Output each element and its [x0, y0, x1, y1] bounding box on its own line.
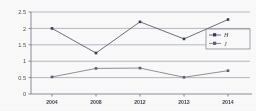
- series-j-point: [183, 76, 186, 79]
- x-tick-label: 2008: [90, 99, 102, 105]
- series-h-point: [95, 52, 98, 55]
- x-tick-label: 2014: [222, 99, 234, 105]
- x-tick-label: 2013: [178, 99, 190, 105]
- legend-marker-h: [213, 33, 216, 36]
- chart-canvas: 2.5 2 1.5 1 0.5 0 2004 2008 2012 2013 20…: [0, 0, 256, 111]
- series-h-point: [227, 18, 230, 21]
- y-tick-label: 2.5: [18, 9, 26, 15]
- series-j-point: [95, 67, 98, 70]
- series-j-point: [227, 69, 230, 72]
- y-axis-tick-labels: 2.5 2 1.5 1 0.5 0: [18, 9, 26, 97]
- series-j-point: [139, 67, 142, 70]
- legend-marker-j: [213, 42, 216, 45]
- series-h-point: [183, 38, 186, 41]
- x-tick-label: 2004: [46, 99, 58, 105]
- y-tick-label: 1: [23, 58, 26, 64]
- series-h-point: [139, 21, 142, 24]
- x-tick-label: 2012: [134, 99, 146, 105]
- series-h-point: [51, 27, 54, 30]
- legend-label-h: H: [223, 32, 229, 38]
- x-axis-tick-labels: 2004 2008 2012 2013 2014: [46, 99, 234, 105]
- series-j-point: [51, 76, 54, 79]
- y-tick-label: 0.5: [18, 75, 26, 81]
- y-tick-label: 0: [23, 91, 26, 97]
- chart-legend[interactable]: H J: [206, 29, 250, 49]
- y-tick-label: 2: [23, 26, 26, 32]
- legend-label-j: J: [224, 41, 227, 47]
- y-tick-label: 1.5: [18, 42, 26, 48]
- line-chart: 2.5 2 1.5 1 0.5 0 2004 2008 2012 2013 20…: [0, 0, 256, 111]
